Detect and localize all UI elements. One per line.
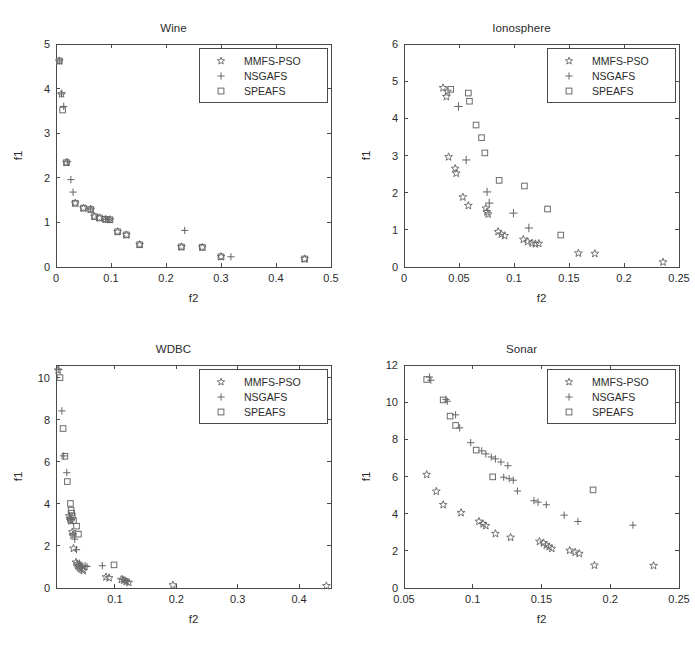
y-tick-label: 4 bbox=[392, 508, 398, 520]
scatter-plot-wine: 00.10.20.30.40.5012345f2f1MMFS-PSONSGAFS… bbox=[0, 22, 347, 322]
y-tick-label: 3 bbox=[392, 150, 398, 162]
legend-label-mmfs-pso: MMFS-PSO bbox=[244, 376, 301, 388]
y-tick-label: 2 bbox=[44, 172, 50, 184]
x-tick-label: 0.15 bbox=[558, 272, 579, 284]
x-tick-label: 0.2 bbox=[603, 593, 618, 605]
panel-ionosphere: Ionosphere 00.050.10.150.20.250123456f2f… bbox=[348, 22, 695, 322]
x-tick-label: 0.1 bbox=[103, 272, 118, 284]
panel-sonar: Sonar 0.050.10.150.20.25024681012f2f1MMF… bbox=[348, 343, 695, 643]
legend-label-nsgafs: NSGAFS bbox=[592, 391, 635, 403]
series-speafs bbox=[448, 87, 564, 238]
x-tick-label: 0.4 bbox=[291, 593, 306, 605]
y-tick-label: 0 bbox=[44, 582, 50, 594]
x-axis-label: f2 bbox=[189, 613, 199, 625]
panel-wdbc: WDBC 0.10.20.30.40246810f2f1MMFS-PSONSGA… bbox=[0, 343, 347, 643]
x-tick-label: 0.2 bbox=[169, 593, 184, 605]
y-tick-label: 0 bbox=[392, 261, 398, 273]
y-tick-label: 8 bbox=[44, 414, 50, 426]
x-tick-label: 0 bbox=[53, 272, 59, 284]
x-tick-label: 0.25 bbox=[668, 272, 689, 284]
y-tick-label: 5 bbox=[392, 75, 398, 87]
legend-label-speafs: SPEAFS bbox=[244, 406, 285, 418]
scatter-plot-ionosphere: 00.050.10.150.20.250123456f2f1MMFS-PSONS… bbox=[348, 22, 695, 322]
y-tick-label: 0 bbox=[392, 582, 398, 594]
x-tick-label: 0.3 bbox=[230, 593, 245, 605]
x-tick-label: 0.4 bbox=[268, 272, 283, 284]
y-tick-label: 6 bbox=[392, 471, 398, 483]
series-nsgafs bbox=[454, 102, 533, 232]
y-tick-label: 4 bbox=[44, 498, 50, 510]
y-tick-label: 6 bbox=[392, 38, 398, 50]
legend-label-speafs: SPEAFS bbox=[592, 406, 633, 418]
series-nsgafs bbox=[55, 366, 131, 585]
y-tick-label: 10 bbox=[386, 396, 398, 408]
chart-legend: MMFS-PSONSGAFSSPEAFS bbox=[199, 48, 327, 102]
y-tick-label: 2 bbox=[392, 545, 398, 557]
x-axis-label: f2 bbox=[537, 613, 547, 625]
y-tick-label: 10 bbox=[38, 372, 50, 384]
y-axis-label: f1 bbox=[12, 151, 24, 161]
x-tick-label: 0.5 bbox=[323, 272, 338, 284]
y-tick-label: 12 bbox=[386, 359, 398, 371]
scatter-plot-sonar: 0.050.10.150.20.25024681012f2f1MMFS-PSON… bbox=[348, 343, 695, 643]
x-tick-label: 0.05 bbox=[448, 272, 469, 284]
legend-label-nsgafs: NSGAFS bbox=[244, 391, 287, 403]
chart-legend: MMFS-PSONSGAFSSPEAFS bbox=[547, 369, 675, 423]
y-axis-label: f1 bbox=[360, 472, 372, 482]
x-tick-label: 0.3 bbox=[213, 272, 228, 284]
legend-label-speafs: SPEAFS bbox=[244, 85, 285, 97]
x-tick-label: 0.2 bbox=[158, 272, 173, 284]
chart-legend: MMFS-PSONSGAFSSPEAFS bbox=[199, 369, 327, 423]
legend-label-nsgafs: NSGAFS bbox=[244, 70, 287, 82]
y-tick-label: 2 bbox=[392, 187, 398, 199]
x-tick-label: 0.2 bbox=[616, 272, 631, 284]
legend-label-mmfs-pso: MMFS-PSO bbox=[592, 55, 649, 67]
x-axis-label: f2 bbox=[537, 292, 547, 304]
legend-label-speafs: SPEAFS bbox=[592, 85, 633, 97]
figure-canvas: Wine 00.10.20.30.40.5012345f2f1MMFS-PSON… bbox=[0, 0, 695, 648]
y-axis-label: f1 bbox=[360, 151, 372, 161]
y-axis-label: f1 bbox=[12, 472, 24, 482]
legend-label-nsgafs: NSGAFS bbox=[592, 70, 635, 82]
y-tick-label: 3 bbox=[44, 127, 50, 139]
chart-legend: MMFS-PSONSGAFSSPEAFS bbox=[547, 48, 675, 102]
x-tick-label: 0.05 bbox=[393, 593, 414, 605]
panel-wine: Wine 00.10.20.30.40.5012345f2f1MMFS-PSON… bbox=[0, 22, 347, 322]
y-tick-label: 4 bbox=[392, 112, 398, 124]
series-mmfs-pso bbox=[423, 471, 658, 569]
y-tick-label: 4 bbox=[44, 83, 50, 95]
y-tick-label: 8 bbox=[392, 433, 398, 445]
x-tick-label: 0 bbox=[401, 272, 407, 284]
y-tick-label: 1 bbox=[392, 224, 398, 236]
series-speafs bbox=[57, 375, 117, 568]
y-tick-label: 2 bbox=[44, 540, 50, 552]
x-tick-label: 0.1 bbox=[107, 593, 122, 605]
legend-label-mmfs-pso: MMFS-PSO bbox=[244, 55, 301, 67]
y-tick-label: 5 bbox=[44, 38, 50, 50]
x-axis-label: f2 bbox=[189, 292, 199, 304]
x-tick-label: 0.15 bbox=[531, 593, 552, 605]
scatter-plot-wdbc: 0.10.20.30.40246810f2f1MMFS-PSONSGAFSSPE… bbox=[0, 343, 347, 643]
x-tick-label: 0.1 bbox=[465, 593, 480, 605]
legend-label-mmfs-pso: MMFS-PSO bbox=[592, 376, 649, 388]
y-tick-label: 6 bbox=[44, 456, 50, 468]
x-tick-label: 0.25 bbox=[668, 593, 689, 605]
series-mmfs-pso bbox=[439, 84, 667, 266]
y-tick-label: 1 bbox=[44, 216, 50, 228]
y-tick-label: 0 bbox=[44, 261, 50, 273]
x-tick-label: 0.1 bbox=[506, 272, 521, 284]
